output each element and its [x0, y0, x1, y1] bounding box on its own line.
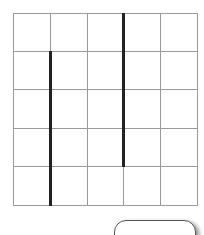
grid-cell[interactable]: [13, 166, 50, 205]
grid-cell[interactable]: [160, 89, 197, 128]
grid-line-vertical: [13, 13, 14, 206]
grid-cell[interactable]: [13, 51, 50, 89]
grid-cell[interactable]: [123, 89, 160, 128]
grid-cell[interactable]: [50, 51, 87, 89]
grid-line-horizontal: [13, 13, 198, 14]
grid-cell[interactable]: [13, 13, 50, 51]
grid-cell[interactable]: [87, 13, 123, 51]
grid-cell[interactable]: [160, 13, 197, 51]
grid-cell[interactable]: [123, 166, 160, 205]
grid-line-horizontal: [13, 51, 198, 52]
wall-segment: [122, 13, 125, 167]
grid-cell[interactable]: [87, 51, 123, 89]
grid-cell[interactable]: [123, 51, 160, 89]
grid-cell[interactable]: [13, 89, 50, 128]
grid-cell[interactable]: [50, 89, 87, 128]
grid-cell[interactable]: [50, 13, 87, 51]
grid-cell[interactable]: [160, 128, 197, 166]
grid-line-vertical: [197, 13, 198, 206]
grid-cell[interactable]: [50, 128, 87, 166]
grid-line-horizontal: [13, 128, 198, 129]
grid-line-vertical: [87, 13, 88, 206]
grid-cell[interactable]: [160, 166, 197, 205]
grid-cell[interactable]: [123, 128, 160, 166]
action-button[interactable]: [114, 220, 196, 235]
grid-cell[interactable]: [13, 128, 50, 166]
grid-cell[interactable]: [160, 51, 197, 89]
grid-cell[interactable]: [87, 128, 123, 166]
puzzle-board: [0, 0, 204, 235]
wall-segment: [49, 51, 52, 206]
grid-cell[interactable]: [123, 13, 160, 51]
grid-line-vertical: [160, 13, 161, 206]
grid-cell[interactable]: [87, 166, 123, 205]
grid-line-horizontal: [13, 205, 198, 206]
grid-cell[interactable]: [50, 166, 87, 205]
grid-line-horizontal: [13, 89, 198, 90]
grid-cell[interactable]: [87, 89, 123, 128]
grid-line-horizontal: [13, 166, 198, 167]
